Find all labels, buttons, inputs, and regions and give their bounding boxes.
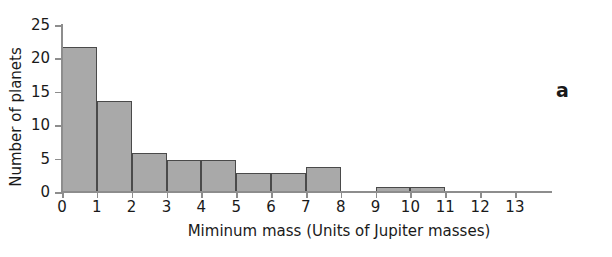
- histogram-bar: [97, 101, 132, 192]
- y-tick-mark: [55, 192, 62, 194]
- y-tick-label: 10: [24, 116, 50, 134]
- y-tick-mark: [55, 159, 62, 161]
- y-tick-label: 25: [24, 16, 50, 34]
- y-tick-label: 15: [24, 83, 50, 101]
- histogram-bar: [306, 167, 341, 192]
- histogram-figure: 012345678910111213 0510152025 Miminum ma…: [0, 0, 612, 257]
- histogram-bar: [201, 160, 236, 192]
- y-tick-mark: [55, 92, 62, 94]
- y-tick-mark: [55, 125, 62, 127]
- y-tick-mark: [55, 25, 62, 27]
- y-tick-label: 0: [24, 183, 50, 201]
- y-tick-label: 5: [24, 150, 50, 168]
- histogram-bar: [271, 173, 306, 192]
- histogram-bar: [167, 160, 202, 192]
- x-axis-title: Miminum mass (Units of Jupiter masses): [0, 222, 612, 240]
- histogram-bar: [236, 173, 271, 192]
- y-axis-title: Number of planets: [7, 32, 25, 202]
- x-tick-label: 13: [495, 198, 535, 216]
- plot-area: [62, 25, 515, 192]
- histogram-bar: [62, 47, 97, 192]
- y-tick-label: 20: [24, 49, 50, 67]
- histogram-bar: [132, 153, 167, 192]
- y-axis-line: [61, 24, 63, 192]
- panel-label: a: [556, 79, 569, 101]
- y-tick-mark: [55, 58, 62, 60]
